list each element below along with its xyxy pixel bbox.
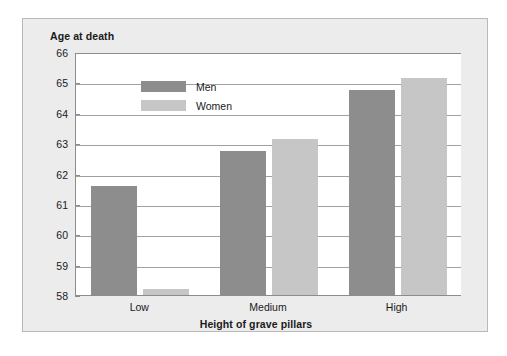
y-axis-tick-label: 60	[56, 229, 68, 241]
legend-item-women: Women	[141, 96, 232, 115]
x-axis-tick-label: Medium	[249, 301, 286, 313]
y-axis-tick-mark	[75, 235, 80, 236]
y-axis-tick-label: 63	[56, 138, 68, 150]
bar-low-women	[143, 289, 189, 295]
legend-swatch-men-icon	[141, 81, 186, 92]
y-axis-tick-label: 58	[56, 290, 68, 302]
legend-swatch-women-icon	[141, 100, 186, 111]
y-axis-tick-mark	[75, 205, 80, 206]
y-axis-tick-mark	[75, 114, 80, 115]
legend-item-men: Men	[141, 77, 232, 96]
bar-medium-men	[220, 151, 266, 295]
chart-legend: Men Women	[141, 77, 232, 115]
legend-label-men: Men	[196, 81, 216, 93]
bar-high-men	[349, 90, 395, 295]
y-axis-tick-mark	[75, 296, 80, 297]
y-axis-tick-mark	[75, 144, 80, 145]
y-axis-title: Age at death	[50, 30, 114, 42]
y-axis-tick-mark	[75, 175, 80, 176]
y-axis-tick-label: 59	[56, 260, 68, 272]
x-axis-tick-label: Low	[130, 301, 149, 313]
y-axis-tick-label: 66	[56, 47, 68, 59]
y-axis-tick-label: 61	[56, 199, 68, 211]
plot-area	[75, 53, 461, 296]
bar-low-men	[91, 186, 137, 295]
y-axis-tick-label: 62	[56, 169, 68, 181]
y-axis-tick-label: 64	[56, 108, 68, 120]
bar-medium-women	[272, 139, 318, 295]
bar-high-women	[401, 78, 447, 295]
y-axis-tick-label: 65	[56, 77, 68, 89]
x-axis-title: Height of grave pillars	[23, 318, 489, 330]
y-axis-tick-mark	[75, 83, 80, 84]
x-axis-tick-label: High	[386, 301, 408, 313]
y-axis-tick-mark	[75, 53, 80, 54]
legend-label-women: Women	[196, 100, 232, 112]
chart-figure: Age at death 666564636261605958 LowMediu…	[22, 18, 488, 332]
y-axis-tick-mark	[75, 266, 80, 267]
y-axis-tick-labels: 666564636261605958	[23, 53, 68, 296]
